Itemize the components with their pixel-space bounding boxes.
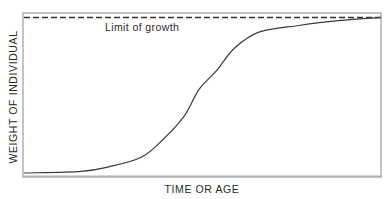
plot-frame (23, 13, 381, 177)
y-axis-label: WEIGHT OF INDIVIDUAL (7, 30, 19, 163)
limit-of-growth-label: Limit of growth (105, 21, 179, 33)
growth-chart (0, 0, 392, 199)
x-axis-label: TIME OR AGE (165, 183, 240, 195)
growth-curve (24, 18, 381, 174)
